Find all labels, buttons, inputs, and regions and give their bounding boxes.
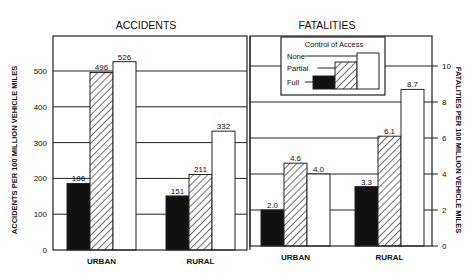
bar-value-label: 2.0 <box>267 201 279 210</box>
legend-swatch-full <box>313 76 335 89</box>
bar-partial-rural <box>378 136 401 246</box>
bar-value-label: 8.7 <box>407 80 419 89</box>
bar-full-urban <box>67 183 90 250</box>
y-tick-label: 500 <box>34 67 48 76</box>
bar-partial-urban <box>284 163 307 246</box>
legend: Control of AccessNonePartialFull <box>281 37 385 95</box>
y-tick-label: 8 <box>442 98 447 107</box>
bar-value-label: 3.3 <box>361 178 373 187</box>
y-axis-label: ACCIDENTS PER 100 MILLION VEHICLE MILES <box>10 66 19 234</box>
bar-value-label: 6.1 <box>384 127 396 136</box>
bar-full-urban <box>261 210 284 246</box>
y-tick-label: 0 <box>442 242 447 251</box>
bar-value-label: 526 <box>118 53 132 62</box>
category-label: RURAL <box>376 253 404 262</box>
bar-partial-rural <box>189 174 212 250</box>
panel-title: ACCIDENTS <box>116 19 177 31</box>
y-tick-label: 100 <box>34 210 48 219</box>
bar-value-label: 332 <box>217 122 231 131</box>
legend-label: Full <box>287 78 299 87</box>
legend-title: Control of Access <box>305 40 364 49</box>
category-label: URBAN <box>281 253 310 262</box>
y-tick-label: 10 <box>442 62 451 71</box>
legend-label: None <box>287 52 305 61</box>
bar-partial-urban <box>90 72 113 250</box>
y-tick-label: 0 <box>43 246 48 255</box>
y-tick-label: 400 <box>34 103 48 112</box>
bar-value-label: 151 <box>171 187 185 196</box>
y-tick-label: 4 <box>442 170 447 179</box>
bar-value-label: 186 <box>72 174 86 183</box>
accidents-panel: ACCIDENTS186496526URBAN151211332RURAL010… <box>10 19 250 266</box>
bar-none-urban <box>113 62 136 250</box>
y-tick-label: 300 <box>34 139 48 148</box>
legend-label: Partial <box>287 64 309 73</box>
bar-value-label: 211 <box>194 165 207 174</box>
bar-value-label: 4.6 <box>290 154 302 163</box>
category-label: RURAL <box>187 257 215 266</box>
bar-full-rural <box>166 196 189 250</box>
panel-title: FATALITIES <box>299 19 356 31</box>
bar-full-rural <box>355 187 378 246</box>
bar-none-rural <box>401 89 424 246</box>
access-control-chart: ACCIDENTS186496526URBAN151211332RURAL010… <box>0 0 471 278</box>
category-label: URBAN <box>87 257 116 266</box>
bar-none-urban <box>307 174 330 246</box>
y-tick-label: 200 <box>34 174 48 183</box>
y-axis-label: FATALITIES PER 100 MILLION VEHICLE MILES <box>454 67 463 233</box>
y-tick-label: 6 <box>442 134 447 143</box>
bar-value-label: 4.0 <box>313 165 325 174</box>
legend-swatch-none <box>357 53 379 89</box>
bar-none-rural <box>212 131 235 250</box>
legend-swatch-partial <box>335 62 357 89</box>
y-tick-label: 2 <box>442 206 447 215</box>
bar-value-label: 496 <box>95 63 109 72</box>
